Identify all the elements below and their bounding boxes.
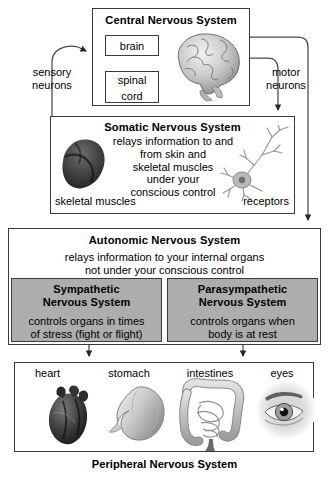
organ-label-stomach: stomach [89,367,169,379]
brain-label: brain [106,36,158,57]
neuron-illustration [218,125,292,201]
stomach-illustration [109,383,171,449]
parasympathetic-nervous-system-box: Parasympathetic Nervous System controls … [167,278,318,342]
intestines-illustration [175,377,249,451]
motor-neurons-label-line-1: motor [253,66,319,79]
peripheral-organs-box: heart stomach intestines eyes [14,362,314,452]
parasympathetic-title-line-2: Nervous System [168,296,317,309]
sympathetic-title-line-2: Nervous System [12,296,161,309]
brain-illustration [165,27,247,103]
eye-illustration [255,379,317,441]
sympathetic-title-line-1: Sympathetic [12,283,161,296]
skeletal-muscle-illustration [55,135,115,197]
peripheral-nervous-system-caption: Peripheral Nervous System [0,458,329,470]
sensory-neurons-label-line-2: neurons [12,79,92,92]
spinal-cord-label-1: spinal [106,72,158,88]
nervous-system-diagram: Central Nervous System brain spinal cord [0,0,329,481]
sympathetic-nervous-system-box: Sympathetic Nervous System controls orga… [11,278,162,342]
parasympathetic-title-line-1: Parasympathetic [168,283,317,296]
autonomic-body-line-1: relays information to your internal orga… [9,251,320,264]
spinal-cord-box: spinal cord [105,71,159,103]
spinal-cord-label-2: cord [106,88,158,104]
parasympathetic-title: Parasympathetic Nervous System [168,283,317,309]
sympathetic-body-line-1: controls organs in times [12,315,161,328]
cns-title: Central Nervous System [93,14,249,26]
sensory-neurons-label: sensory neurons [12,66,92,92]
heart-illustration [41,383,97,449]
sympathetic-body-line-2: of stress (fight or flight) [12,328,161,341]
somatic-nervous-system-box: Somatic Nervous System relays informatio… [50,116,295,214]
skeletal-muscles-label: skeletal muscles [55,195,175,207]
sensory-neurons-label-line-1: sensory [12,66,92,79]
autonomic-title: Autonomic Nervous System [9,234,320,246]
autonomic-body-line-2: not under your conscious control [9,264,320,277]
sympathetic-title: Sympathetic Nervous System [12,283,161,309]
central-nervous-system-box: Central Nervous System brain spinal cord [92,8,250,106]
autonomic-body: relays information to your internal orga… [9,251,320,277]
motor-neurons-label: motor neurons [253,66,319,92]
sympathetic-body: controls organs in times of stress (figh… [12,315,161,341]
parasympathetic-body-line-1: controls organs when [168,315,317,328]
motor-neurons-label-line-2: neurons [253,79,319,92]
brain-box: brain [105,35,159,56]
organ-label-eyes: eyes [253,367,311,379]
parasympathetic-body-line-2: body is at rest [168,328,317,341]
parasympathetic-body: controls organs when body is at rest [168,315,317,341]
receptors-label: receptors [243,195,289,207]
